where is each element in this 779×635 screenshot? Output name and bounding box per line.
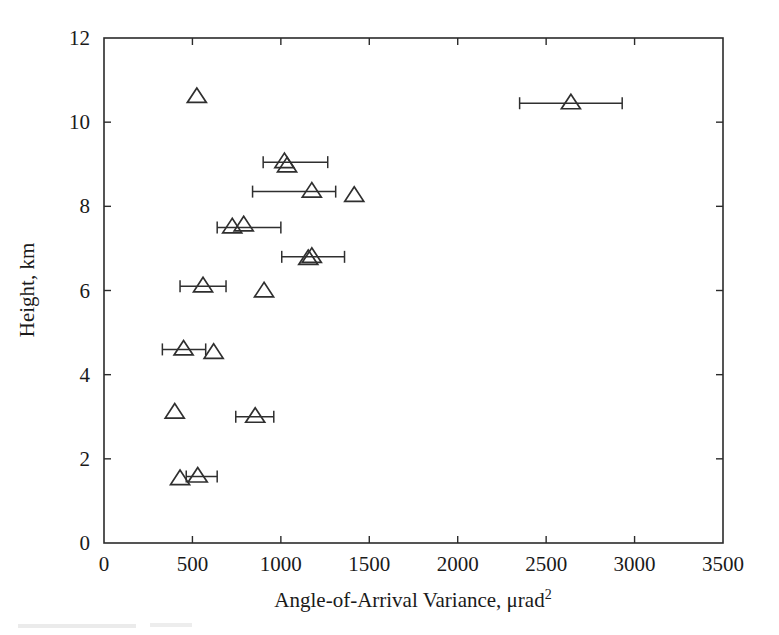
plot-frame (104, 38, 723, 543)
triangle-marker (234, 216, 253, 231)
data-point (204, 344, 223, 359)
triangle-marker (255, 282, 274, 297)
data-point (520, 94, 623, 109)
x-tick-label: 1000 (260, 552, 302, 576)
data-point (255, 282, 274, 297)
scan-artifact (18, 623, 192, 628)
x-tick-label: 2000 (437, 552, 479, 576)
error-bar (162, 343, 205, 355)
y-tick-label: 6 (80, 279, 91, 303)
error-bar (263, 156, 328, 168)
angle-of-arrival-variance-scatter-figure: 0500100015002000250030003500 024681012 A… (0, 0, 779, 635)
triangle-marker (345, 187, 364, 202)
triangle-marker (302, 183, 321, 198)
triangle-marker (187, 88, 206, 103)
data-series-layer (162, 88, 622, 485)
triangle-marker (188, 468, 207, 483)
triangle-marker (174, 340, 193, 355)
x-tick-label: 3000 (614, 552, 656, 576)
y-axis-title: Height, km (15, 243, 39, 338)
data-point (187, 88, 206, 103)
triangle-marker (204, 344, 223, 359)
scatter-plot-canvas: 0500100015002000250030003500 024681012 A… (0, 0, 779, 635)
triangle-marker (561, 94, 580, 109)
error-bar (253, 186, 336, 198)
y-axis-ticks (104, 122, 723, 459)
y-axis-tick-labels: 024681012 (69, 26, 91, 555)
data-point (263, 153, 328, 168)
y-tick-label: 10 (69, 110, 90, 134)
x-tick-label: 500 (177, 552, 209, 576)
y-tick-label: 4 (80, 363, 91, 387)
error-bar (180, 280, 226, 292)
data-point (282, 248, 345, 263)
data-point (234, 216, 253, 231)
x-axis-title: Angle-of-Arrival Variance, μrad2 (274, 587, 551, 612)
y-tick-label: 12 (69, 26, 90, 50)
x-tick-label: 0 (99, 552, 110, 576)
triangle-marker (246, 408, 265, 423)
data-point (236, 408, 274, 423)
triangle-marker (165, 404, 184, 419)
y-tick-label: 8 (80, 194, 91, 218)
data-point (180, 277, 226, 292)
data-point (186, 468, 217, 483)
data-point (165, 404, 184, 419)
x-tick-label: 3500 (702, 552, 744, 576)
x-axis-title-text: Angle-of-Arrival Variance, μrad (274, 588, 545, 612)
data-point (253, 183, 336, 198)
x-tick-label: 2500 (525, 552, 567, 576)
error-bar (520, 97, 623, 109)
x-axis-tick-labels: 0500100015002000250030003500 (99, 552, 744, 576)
data-point (162, 340, 205, 355)
y-tick-label: 2 (80, 447, 91, 471)
y-tick-label: 0 (80, 531, 91, 555)
x-tick-label: 1500 (348, 552, 390, 576)
x-axis-title-superscript: 2 (545, 587, 552, 602)
error-bar (236, 411, 274, 423)
data-point (345, 187, 364, 202)
triangle-marker (194, 277, 213, 292)
